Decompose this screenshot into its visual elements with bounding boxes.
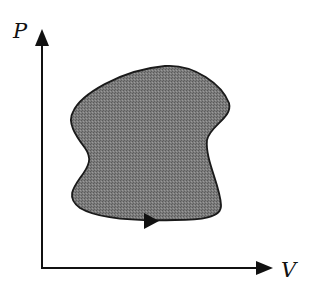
v-axis-arrowhead [256, 261, 273, 275]
p-axis-arrowhead [35, 29, 49, 46]
pv-diagram: P V [0, 0, 315, 302]
v-axis-label: V [281, 258, 298, 282]
p-axis-label: P [12, 19, 28, 43]
cycle-region [71, 66, 230, 220]
